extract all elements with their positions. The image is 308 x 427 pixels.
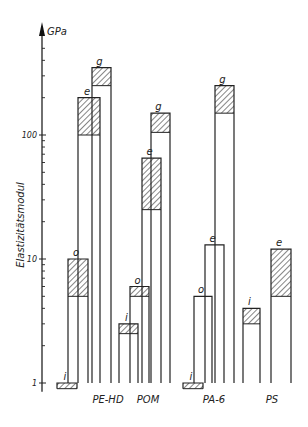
bar-group: ioegioegioegie [57,56,291,389]
bar-pe-hd-e: e [78,86,100,383]
bar-letter-label: g [155,101,161,112]
y-axis: GPa110100Elastizitätsmodul [15,22,67,392]
category-label: PS [266,394,279,405]
bar-letter-label: i [125,312,128,323]
y-tick-label: 1 [32,379,37,388]
arrow-up-icon [39,22,45,36]
y-axis-label: Elastizitätsmodul [15,182,26,268]
elasticity-modulus-chart: GPa110100Elastizitätsmodul ioegioegioegi… [0,0,308,427]
bar-letter-label: i [64,371,67,382]
category-label: PE-HD [92,394,123,405]
bar-ps-e: e [271,237,291,383]
category-labels: PE-HDPOMPA-6PS [92,394,278,405]
bar-letter-label: e [146,146,152,157]
bar-pa-6-o: o [194,284,212,383]
bar-letter-label: g [219,74,225,85]
y-unit-label: GPa [47,26,67,37]
bar-letter-label: o [134,275,140,286]
bar-pom-i: i [119,312,138,383]
category-label: PA-6 [203,394,225,405]
category-label: POM [137,394,160,405]
bar-letter-label: i [248,296,251,307]
bar-ps-i: i [243,296,260,383]
bar-letter-label: i [190,371,193,382]
bar-letter-label: e [276,237,282,248]
bar-letter-label: g [96,56,102,67]
y-tick-label: 10 [27,255,37,264]
bar-pe-hd-i: i [57,371,77,389]
y-tick-label: 100 [22,131,37,140]
bar-letter-label: o [198,284,204,295]
bar-pa-6-i: i [183,371,203,389]
bar-letter-label: e [84,86,90,97]
